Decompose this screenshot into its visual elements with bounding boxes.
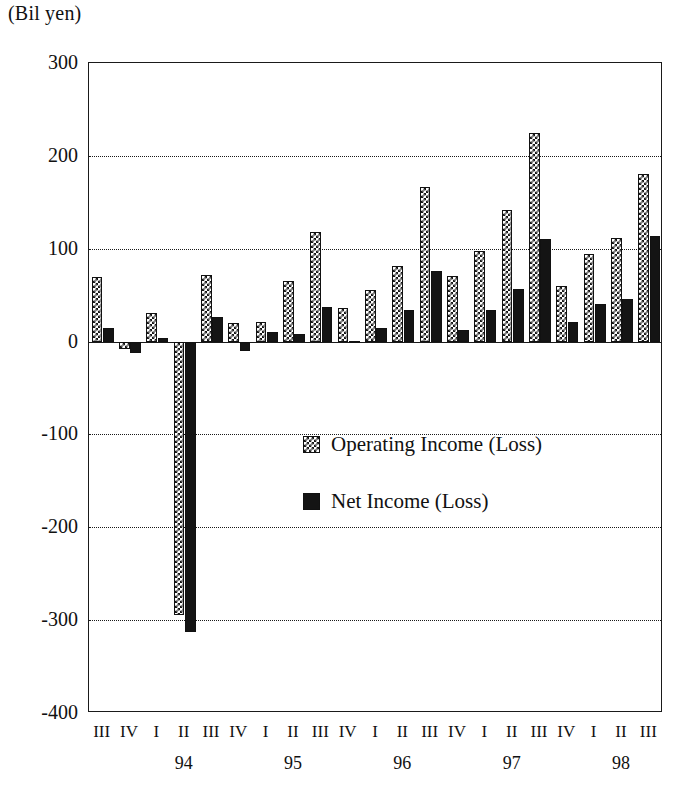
bar-operating-11 [392, 266, 403, 341]
x-year-label-95: 95 [284, 753, 302, 774]
bar-operating-1 [119, 342, 130, 349]
x-tick-label-20: III [640, 722, 657, 742]
bar-operating-7 [283, 281, 294, 341]
legend-label-operating-income: Operating Income (Loss) [331, 434, 542, 455]
y-tick-label-300: 300 [10, 51, 78, 74]
bar-operating-10 [365, 290, 376, 342]
legend-item-net-income: Net Income (Loss) [303, 491, 542, 512]
chart-container: (Bil yen) 3002001000-100-200-300-400 III… [0, 0, 680, 791]
x-tick-label-16: III [531, 722, 548, 742]
bar-net-16 [540, 239, 551, 342]
x-tick-label-15: II [506, 722, 517, 742]
bar-net-2 [158, 338, 169, 342]
y-axis-units-label: (Bil yen) [8, 2, 81, 25]
bar-operating-4 [201, 275, 212, 342]
bar-operating-13 [447, 276, 458, 342]
legend-swatch-net-icon [303, 493, 320, 510]
y-tick-label--300: -300 [10, 608, 78, 631]
x-tick-label-12: III [421, 722, 438, 742]
bar-operating-6 [256, 322, 267, 342]
x-tick-label-19: II [615, 722, 626, 742]
x-tick-label-8: III [312, 722, 329, 742]
y-tick-label--200: -200 [10, 515, 78, 538]
x-tick-label-13: IV [448, 722, 466, 742]
bar-operating-16 [529, 133, 540, 342]
x-tick-label-1: IV [120, 722, 138, 742]
bar-net-3 [185, 342, 196, 633]
bar-net-4 [212, 317, 223, 341]
bar-net-6 [267, 332, 278, 341]
y-tick-label-100: 100 [10, 236, 78, 259]
bar-operating-2 [146, 313, 157, 342]
x-tick-label-0: III [93, 722, 110, 742]
x-tick-label-10: I [372, 722, 378, 742]
x-year-label-96: 96 [393, 753, 411, 774]
bar-net-18 [595, 304, 606, 342]
bar-net-5 [240, 342, 251, 351]
bar-operating-5 [228, 323, 239, 342]
x-tick-label-11: II [397, 722, 408, 742]
plot-area [88, 62, 662, 712]
bar-net-11 [404, 310, 415, 342]
bar-net-20 [650, 236, 661, 342]
bar-net-8 [322, 307, 333, 341]
bar-operating-14 [474, 251, 485, 342]
bar-operating-19 [611, 238, 622, 342]
bar-net-1 [130, 342, 141, 353]
bar-net-9 [349, 341, 360, 343]
x-tick-label-18: I [591, 722, 597, 742]
y-tick-label--400: -400 [10, 701, 78, 724]
bar-operating-9 [338, 308, 349, 341]
y-tick-label-200: 200 [10, 143, 78, 166]
bar-operating-15 [502, 210, 513, 342]
bars-layer [89, 63, 661, 711]
bar-net-12 [431, 271, 442, 342]
x-tick-label-3: II [178, 722, 189, 742]
bar-net-0 [103, 328, 114, 342]
bar-operating-20 [638, 174, 649, 342]
bar-operating-12 [420, 187, 431, 341]
y-tick-label--100: -100 [10, 422, 78, 445]
bar-net-10 [376, 328, 387, 342]
x-year-label-97: 97 [503, 753, 521, 774]
x-tick-label-17: IV [557, 722, 575, 742]
chart-legend: Operating Income (Loss) Net Income (Loss… [303, 434, 542, 548]
legend-swatch-operating-icon [303, 436, 320, 453]
bar-operating-18 [584, 254, 595, 341]
x-tick-label-14: I [481, 722, 487, 742]
x-tick-label-7: II [287, 722, 298, 742]
bar-net-19 [622, 299, 633, 342]
bar-net-17 [568, 322, 579, 342]
x-tick-label-4: III [203, 722, 220, 742]
bar-net-13 [458, 330, 469, 341]
x-year-label-94: 94 [175, 753, 193, 774]
bar-net-7 [294, 334, 305, 341]
bar-operating-0 [92, 277, 103, 342]
legend-item-operating-income: Operating Income (Loss) [303, 434, 542, 455]
bar-net-15 [513, 289, 524, 342]
x-tick-label-6: I [263, 722, 269, 742]
x-year-label-98: 98 [612, 753, 630, 774]
x-tick-label-2: I [153, 722, 159, 742]
bar-net-14 [486, 310, 497, 342]
y-tick-label-0: 0 [10, 329, 78, 352]
legend-label-net-income: Net Income (Loss) [331, 491, 488, 512]
x-tick-label-5: IV [229, 722, 247, 742]
bar-operating-17 [556, 286, 567, 342]
bar-operating-8 [310, 232, 321, 342]
bar-operating-3 [174, 342, 185, 616]
x-tick-label-9: IV [339, 722, 357, 742]
